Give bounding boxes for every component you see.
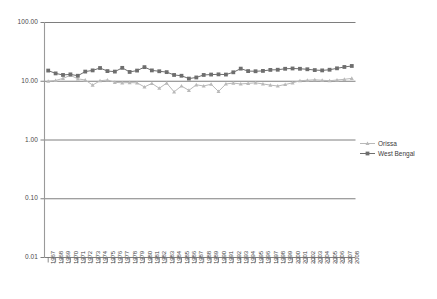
x-axis-tick-label: 1995 [258, 251, 264, 264]
data-point-marker [231, 70, 235, 74]
y-axis-tick-label: 10.00 [0, 77, 38, 84]
x-axis-tick-label: 1980 [147, 251, 153, 264]
legend-label: Orissa [378, 139, 397, 148]
x-axis-tick-label: 1983 [169, 251, 175, 264]
x-axis-tick-label: 1985 [184, 251, 190, 264]
data-point-marker [69, 72, 73, 76]
data-point-marker [254, 69, 258, 73]
x-axis-tick-label: 1984 [176, 251, 182, 264]
data-point-marker [239, 67, 243, 71]
data-point-marker [76, 74, 80, 78]
x-axis-tick-label: 2007 [347, 251, 353, 264]
data-point-marker [291, 67, 295, 71]
data-point-marker [209, 73, 213, 77]
legend-marker-icon [360, 149, 375, 158]
legend-label: West Bengal [378, 149, 415, 158]
data-point-marker [54, 72, 58, 76]
x-axis-tick-label: 2002 [310, 251, 316, 264]
x-axis-tick-label: 1999 [287, 251, 293, 264]
x-axis-tick-label: 1989 [213, 251, 219, 264]
data-point-marker [98, 66, 102, 70]
data-point-marker [172, 73, 176, 77]
x-axis-tick-label: 1973 [95, 251, 101, 264]
data-point-marker [261, 69, 265, 73]
x-axis-tick-label: 1982 [161, 251, 167, 264]
x-axis-tick-label: 1969 [65, 251, 71, 264]
x-axis-tick-label: 1992 [236, 251, 242, 264]
data-point-marker [305, 67, 309, 71]
x-axis-tick-label: 2006 [339, 251, 345, 264]
x-axis-tick-label: 1968 [58, 251, 64, 264]
data-point-marker [120, 66, 124, 70]
data-point-marker [150, 81, 154, 85]
data-point-marker [320, 69, 324, 73]
x-axis-tick-label: 1972 [87, 251, 93, 264]
data-point-marker [224, 73, 228, 77]
x-axis-tick-label: 1994 [250, 251, 256, 264]
data-point-marker [91, 69, 95, 73]
data-point-marker [202, 73, 206, 77]
x-axis-tick-label: 2008 [354, 251, 360, 264]
x-axis-tick-label: 1997 [273, 251, 279, 264]
x-axis-tick-label: 2001 [302, 251, 308, 264]
x-axis-tick-label: 2000 [295, 251, 301, 264]
data-point-marker [179, 84, 183, 88]
chart-container: 100.0010.001.000.100.01 1967196819691970… [0, 0, 437, 299]
legend-item[interactable]: West Bengal [360, 148, 415, 158]
x-axis-tick-label: 1970 [73, 251, 79, 264]
x-axis-tick-label: 1996 [265, 251, 271, 264]
y-axis-tick-label: 0.01 [0, 253, 38, 260]
x-axis-tick-label: 1978 [132, 251, 138, 264]
data-point-marker [350, 64, 354, 68]
data-point-marker [276, 68, 280, 72]
x-axis-tick-label: 2005 [332, 251, 338, 264]
data-point-marker [298, 67, 302, 71]
data-point-marker [128, 70, 132, 74]
x-axis-tick-label: 2003 [317, 251, 323, 264]
data-point-marker [328, 68, 332, 72]
data-point-marker [283, 67, 287, 71]
data-point-marker [113, 70, 117, 74]
x-axis-tick-label: 1990 [221, 251, 227, 264]
legend-item[interactable]: Orissa [360, 138, 415, 148]
series-line-orissa [48, 75, 352, 92]
data-point-marker [157, 69, 161, 73]
x-axis-tick-label: 1979 [139, 251, 145, 264]
y-axis-tick-label: 100.00 [0, 18, 38, 25]
y-axis-tick-label: 0.10 [0, 194, 38, 201]
chart-legend: OrissaWest Bengal [360, 138, 415, 158]
x-axis-tick-label: 1975 [110, 251, 116, 264]
data-point-marker [83, 70, 87, 74]
data-point-marker [313, 68, 317, 72]
data-point-marker [46, 69, 50, 73]
x-axis-tick-label: 1993 [243, 251, 249, 264]
x-axis-tick-label: 1977 [124, 251, 130, 264]
data-point-marker [217, 72, 221, 76]
data-point-marker [194, 76, 198, 80]
x-axis-tick-label: 1987 [198, 251, 204, 264]
x-axis-tick-label: 1988 [206, 251, 212, 264]
data-point-marker [209, 82, 213, 86]
x-axis-tick-label: 2004 [324, 251, 330, 264]
data-point-marker [143, 65, 147, 69]
data-point-marker [150, 69, 154, 73]
x-axis-tick-label: 1976 [117, 251, 123, 264]
x-axis-tick-label: 1981 [154, 251, 160, 264]
x-axis-tick-label: 1971 [80, 251, 86, 264]
x-axis-tick-label: 1986 [191, 251, 197, 264]
data-point-marker [61, 73, 65, 77]
x-axis-tick-label: 1991 [228, 251, 234, 264]
data-point-marker [335, 66, 339, 70]
data-point-marker [246, 69, 250, 73]
y-axis-tick-label: 1.00 [0, 136, 38, 143]
data-point-marker [165, 70, 169, 74]
data-point-marker [268, 68, 272, 72]
data-point-marker [187, 77, 191, 81]
data-point-marker [106, 69, 110, 73]
x-axis-tick-label: 1974 [102, 251, 108, 264]
data-point-marker [342, 65, 346, 69]
data-point-marker [135, 69, 139, 73]
data-point-marker [180, 74, 184, 78]
x-axis-tick-label: 1967 [50, 251, 56, 264]
x-axis-tick-label: 1998 [280, 251, 286, 264]
